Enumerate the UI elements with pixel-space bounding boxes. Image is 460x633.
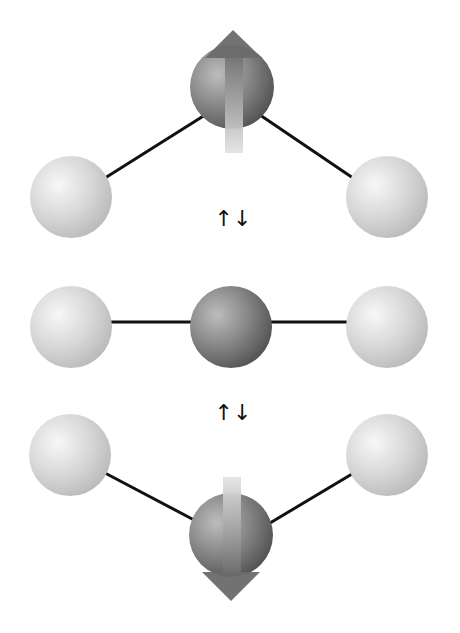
transition-arrows-2: ↑↓ xyxy=(215,400,252,425)
bond-left xyxy=(105,115,205,178)
outer-atom-left xyxy=(29,414,111,496)
bond-left xyxy=(105,473,196,521)
bond-right xyxy=(260,115,353,178)
outer-atom-right xyxy=(346,286,428,368)
outer-atom-left xyxy=(30,156,112,238)
transition-arrows-1: ↑↓ xyxy=(215,206,252,231)
state-linear xyxy=(30,286,428,368)
state-bent-down xyxy=(29,414,428,601)
bond-right xyxy=(270,474,352,523)
outer-atom-right xyxy=(346,156,428,238)
outer-atom-left xyxy=(30,286,112,368)
outer-atom-right xyxy=(346,414,428,496)
central-atom xyxy=(190,286,272,368)
vibration-diagram: ↑↓ ↑↓ xyxy=(0,0,460,633)
